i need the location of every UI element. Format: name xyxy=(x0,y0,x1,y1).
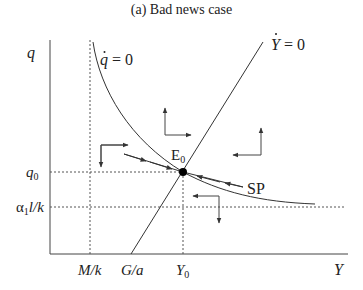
ga-label: G/a xyxy=(121,262,144,278)
ydot-label: Y = 0 xyxy=(271,36,305,53)
equilibrium-point xyxy=(179,168,187,176)
sp-arrow-icon xyxy=(124,154,146,161)
sp-arrow-icon xyxy=(225,183,243,187)
mk-label: M/k xyxy=(77,262,102,278)
qdot-dot-icon xyxy=(104,51,106,53)
y-axis-label: q xyxy=(27,44,35,62)
direction-arrows-left xyxy=(101,145,128,167)
phase-diagram: q Y q0 α1l/k M/k G/a Y0 q = 0 Y = 0 SP E… xyxy=(0,0,363,290)
sp-label: SP xyxy=(247,180,265,197)
direction-arrows-right xyxy=(233,128,261,155)
direction-arrows-top xyxy=(165,108,191,135)
x-axis-label: Y xyxy=(334,261,345,278)
ydot-dot-icon xyxy=(275,33,277,35)
equilibrium-label: E0 xyxy=(171,147,185,165)
y0-label: Y0 xyxy=(176,262,189,280)
alpha-label: α1l/k xyxy=(16,199,44,217)
q0-label: q0 xyxy=(26,164,39,182)
direction-arrows-bottom xyxy=(193,196,219,223)
qdot-label: q = 0 xyxy=(100,51,133,69)
